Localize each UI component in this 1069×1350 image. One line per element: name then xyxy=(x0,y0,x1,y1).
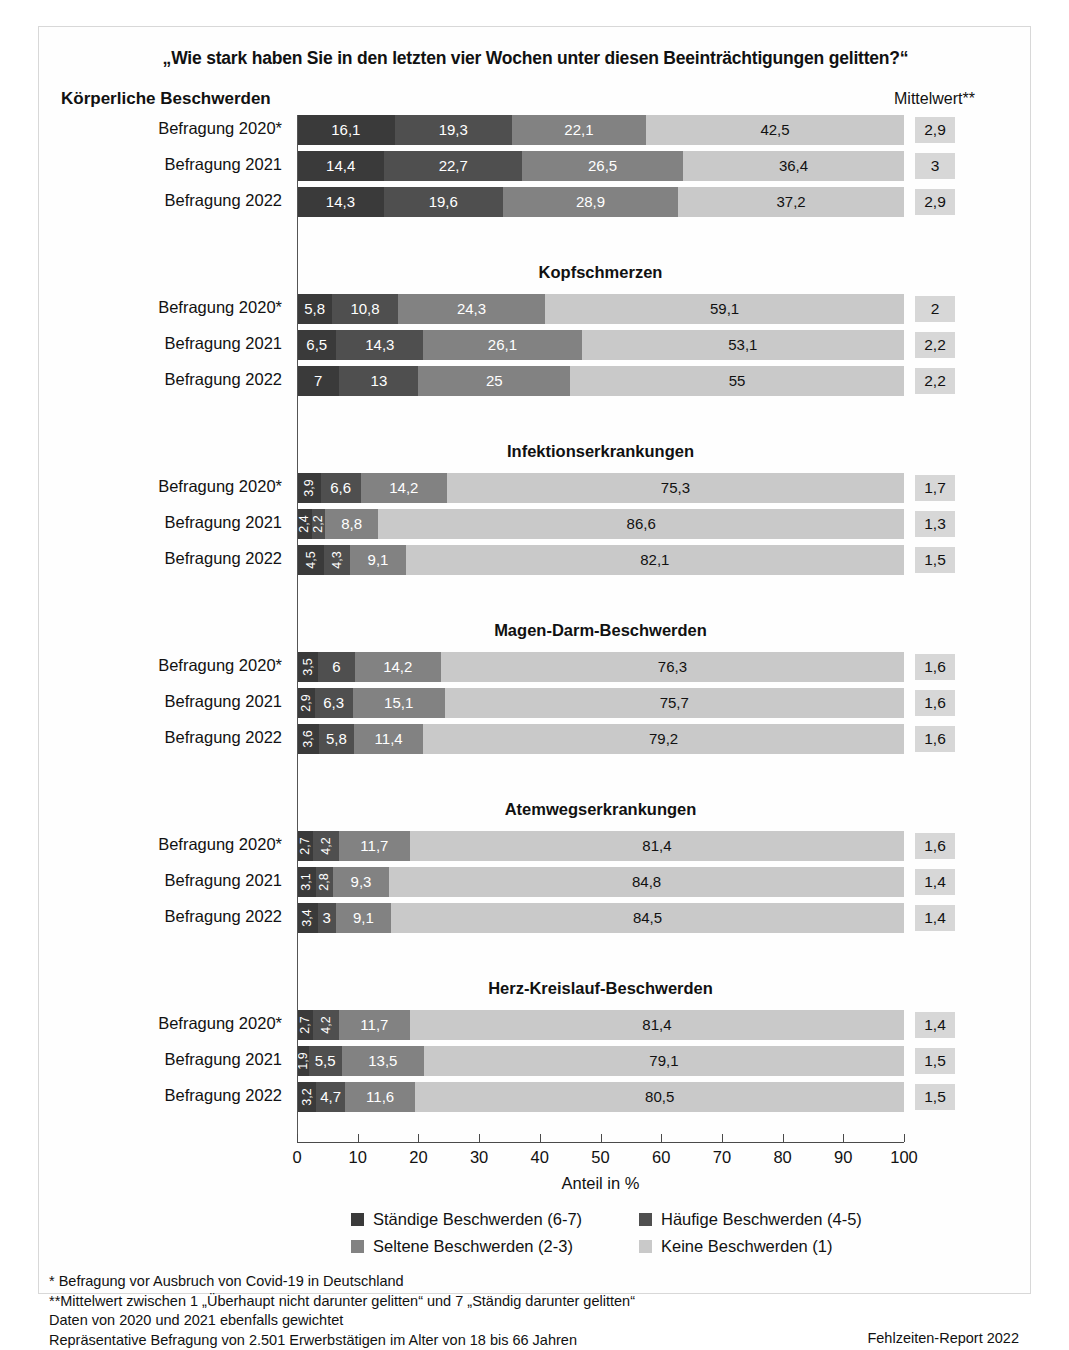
source-label: Fehlzeiten-Report 2022 xyxy=(739,1330,1019,1346)
row-label: Befragung 2022 xyxy=(39,549,282,568)
mean-value: 1,6 xyxy=(915,726,955,752)
bar-segment: 2,7 xyxy=(297,1010,313,1040)
bar-segment-value: 25 xyxy=(418,366,570,396)
bar-segment-value: 22,1 xyxy=(512,115,646,145)
stacked-bar: 14,319,628,937,2 xyxy=(297,187,904,217)
bar-segment-value: 75,3 xyxy=(447,473,904,503)
bar-segment: 2,7 xyxy=(297,831,313,861)
bar-segment: 3,2 xyxy=(297,1082,316,1112)
bar-segment: 11,4 xyxy=(354,724,423,754)
bar-segment-value: 79,2 xyxy=(423,724,904,754)
stacked-bar: 2,74,211,781,4 xyxy=(297,1010,904,1040)
x-axis-tick xyxy=(297,1134,298,1142)
bar-segment: 10,8 xyxy=(332,294,398,324)
chart-row: Befragung 20224,54,39,182,11,5 xyxy=(39,545,1032,575)
stacked-bar: 3,65,811,479,2 xyxy=(297,724,904,754)
bar-segment-value: 5,5 xyxy=(309,1046,342,1076)
bar-segment-value: 24,3 xyxy=(398,294,546,324)
chart-row: Befragung 2020*16,119,322,142,52,9 xyxy=(39,115,1032,145)
bar-segment-value: 3,6 xyxy=(302,730,315,747)
bar-segment: 4,7 xyxy=(316,1082,345,1112)
bar-segment: 3 xyxy=(318,903,336,933)
legend-item: Keine Beschwerden (1) xyxy=(639,1237,833,1256)
bar-segment-value: 2,7 xyxy=(299,837,312,854)
row-label: Befragung 2021 xyxy=(39,334,282,353)
bar-segment: 3,4 xyxy=(297,903,318,933)
x-axis-tick xyxy=(661,1134,662,1142)
bar-segment: 84,8 xyxy=(389,867,904,897)
bar-segment: 25 xyxy=(418,366,570,396)
bar-segment: 9,1 xyxy=(336,903,391,933)
bar-segment-value: 26,5 xyxy=(522,151,683,181)
bar-segment-value: 14,2 xyxy=(355,652,441,682)
bar-segment: 2,8 xyxy=(316,867,333,897)
bar-segment-value: 79,1 xyxy=(424,1046,904,1076)
bar-segment: 82,1 xyxy=(406,545,904,575)
bar-segment: 11,7 xyxy=(339,1010,410,1040)
bar-segment-value: 5,8 xyxy=(297,294,332,324)
mean-value: 1,7 xyxy=(915,475,955,501)
row-label: Befragung 2022 xyxy=(39,907,282,926)
stacked-bar: 2,96,315,175,7 xyxy=(297,688,904,718)
bar-segment-value: 10,8 xyxy=(332,294,398,324)
bar-segment: 3,1 xyxy=(297,867,316,897)
bar-segment-value: 9,1 xyxy=(336,903,391,933)
bar-segment: 28,9 xyxy=(503,187,678,217)
x-axis-tick xyxy=(418,1134,419,1142)
legend-label: Ständige Beschwerden (6-7) xyxy=(373,1210,582,1228)
bar-segment: 3,9 xyxy=(297,473,321,503)
bar-segment-value: 4,5 xyxy=(304,551,317,568)
bar-segment-value: 6,3 xyxy=(315,688,353,718)
x-axis-tick-label: 70 xyxy=(699,1148,745,1167)
chart-row: Befragung 20212,96,315,175,71,6 xyxy=(39,688,1032,718)
row-label: Befragung 2020* xyxy=(39,835,282,854)
bar-segment: 2,2 xyxy=(312,509,325,539)
bar-segment: 22,1 xyxy=(512,115,646,145)
stacked-bar: 3,439,184,5 xyxy=(297,903,904,933)
legend-item: Seltene Beschwerden (2-3) xyxy=(351,1237,573,1256)
bar-segment: 9,3 xyxy=(333,867,389,897)
bar-segment-value: 11,6 xyxy=(345,1082,415,1112)
stacked-bar: 7132555 xyxy=(297,366,904,396)
legend-swatch-icon xyxy=(639,1240,652,1253)
bar-segment-value: 16,1 xyxy=(297,115,395,145)
bar-segment: 14,2 xyxy=(355,652,441,682)
stacked-bar: 3,96,614,275,3 xyxy=(297,473,904,503)
x-axis-tick-label: 10 xyxy=(335,1148,381,1167)
stacked-bar: 16,119,322,142,5 xyxy=(297,115,904,145)
bar-segment-value: 42,5 xyxy=(646,115,904,145)
bar-segment: 19,6 xyxy=(384,187,503,217)
bar-segment: 3,5 xyxy=(297,652,318,682)
bar-segment-value: 7 xyxy=(297,366,339,396)
bar-segment: 4,2 xyxy=(313,1010,338,1040)
chart-row: Befragung 20223,24,711,680,51,5 xyxy=(39,1082,1032,1112)
bar-segment-value: 3,9 xyxy=(303,479,316,496)
x-axis-tick xyxy=(904,1134,905,1142)
row-label: Befragung 2021 xyxy=(39,1050,282,1069)
chart-row: Befragung 20216,514,326,153,12,2 xyxy=(39,330,1032,360)
bar-segment: 5,5 xyxy=(309,1046,342,1076)
bar-segment-value: 9,3 xyxy=(333,867,389,897)
bar-segment-value: 2,8 xyxy=(318,873,331,890)
mean-value: 1,6 xyxy=(915,690,955,716)
mean-value: 1,5 xyxy=(915,1048,955,1074)
bar-segment: 6 xyxy=(318,652,354,682)
bar-segment: 13 xyxy=(339,366,418,396)
row-label: Befragung 2020* xyxy=(39,477,282,496)
row-label: Befragung 2020* xyxy=(39,298,282,317)
footnote-line: * Befragung vor Ausbruch von Covid-19 in… xyxy=(49,1272,749,1292)
group-title: Infektionserkrankungen xyxy=(297,442,904,461)
bar-segment: 7 xyxy=(297,366,339,396)
x-axis-tick-label: 100 xyxy=(881,1148,927,1167)
row-label: Befragung 2020* xyxy=(39,119,282,138)
bar-segment: 75,7 xyxy=(445,688,904,718)
legend-swatch-icon xyxy=(351,1213,364,1226)
bar-segment-value: 3,5 xyxy=(301,658,314,675)
bar-segment-value: 1,9 xyxy=(297,1052,309,1069)
x-axis-tick xyxy=(601,1134,602,1142)
bar-segment-value: 14,4 xyxy=(297,151,384,181)
bar-segment: 14,3 xyxy=(297,187,384,217)
x-axis-tick-label: 90 xyxy=(820,1148,866,1167)
bar-segment: 36,4 xyxy=(683,151,904,181)
x-axis-tick-label: 60 xyxy=(638,1148,684,1167)
